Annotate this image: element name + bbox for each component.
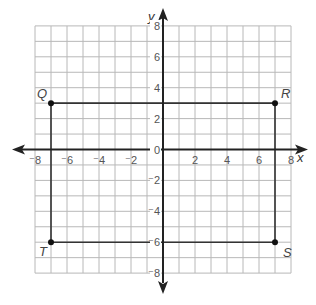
coordinate-plane: xy ⁻8⁻6⁻4⁻22468⁻8⁻6⁻4⁻202468 QRST [0, 0, 316, 305]
x-tick-label: 2 [192, 154, 198, 166]
point-t [48, 239, 54, 245]
point-label-s: S [283, 245, 292, 260]
y-tick-label: ⁻6 [148, 236, 160, 248]
y-tick-label: ⁻2 [148, 174, 160, 186]
y-tick-label: 4 [154, 82, 160, 94]
point-label-t: T [39, 244, 48, 259]
y-tick-label: 0 [154, 144, 160, 156]
point-q [48, 100, 54, 106]
y-tick-label: 2 [154, 113, 160, 125]
point-label-r: R [281, 86, 290, 101]
x-tick-label: 6 [256, 154, 262, 166]
x-tick-label: 4 [224, 154, 230, 166]
y-tick-label: ⁻4 [148, 205, 160, 217]
x-tick-label: ⁻4 [93, 154, 105, 166]
x-axis-label: x [296, 150, 304, 165]
y-tick-label: 8 [154, 20, 160, 32]
x-tick-label: ⁻2 [125, 154, 137, 166]
vertex-points: QRST [37, 86, 292, 260]
point-label-q: Q [37, 86, 47, 101]
y-tick-label: ⁻8 [148, 267, 160, 279]
point-r [272, 100, 278, 106]
x-tick-label: ⁻6 [61, 154, 73, 166]
x-tick-label: ⁻8 [29, 154, 41, 166]
y-tick-label: 6 [154, 51, 160, 63]
x-tick-label: 8 [288, 154, 294, 166]
point-s [272, 239, 278, 245]
